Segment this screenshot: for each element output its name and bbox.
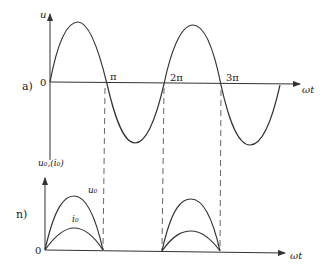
i0-hump-2 <box>162 231 220 251</box>
tick-pi: π <box>110 71 117 82</box>
panel-a-y-axis-label: u <box>40 9 46 20</box>
u0-hump-2 <box>162 199 220 251</box>
panel-b: n) u₀,(i₀) 0 u₀ i₀ ωt <box>16 158 303 261</box>
tick-3pi: 3π <box>226 72 239 83</box>
panel-a-x-axis-label: ωt <box>302 84 315 95</box>
panel-b-y-axis-label: u₀,(i₀) <box>38 158 64 168</box>
dashed-line-2pi <box>162 88 164 250</box>
u0-curve-label: u₀ <box>88 185 98 195</box>
dashed-line-3pi <box>220 90 221 250</box>
panel-a-label: a) <box>22 80 33 93</box>
i0-curve-label: i₀ <box>72 214 79 224</box>
rectifier-waveform-diagram: a) u 0 π 2π 3π ωt n) u₀,(i₀) 0 u₀ i₀ ωt <box>0 0 325 272</box>
panel-a: a) u 0 π 2π 3π ωt <box>22 9 315 160</box>
panel-a-origin-label: 0 <box>40 77 46 88</box>
i0-hump-1 <box>45 228 103 250</box>
panel-b-x-axis-label: ωt <box>290 250 303 261</box>
projection-lines <box>103 88 221 250</box>
panel-b-x-axis <box>45 250 285 253</box>
panel-b-origin-label: 0 <box>35 245 41 256</box>
dashed-line-pi <box>103 88 105 250</box>
tick-2pi: 2π <box>170 72 183 83</box>
panel-b-label: n) <box>16 208 27 221</box>
